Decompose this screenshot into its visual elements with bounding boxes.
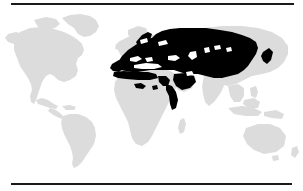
figure-bottom-rule	[11, 183, 292, 185]
world-map	[0, 8, 303, 180]
cutout-aral	[204, 47, 210, 53]
land-tasmania	[272, 155, 279, 161]
world-map-svg	[0, 8, 303, 180]
distribution-map-figure	[0, 0, 303, 191]
figure-top-rule	[11, 3, 294, 5]
